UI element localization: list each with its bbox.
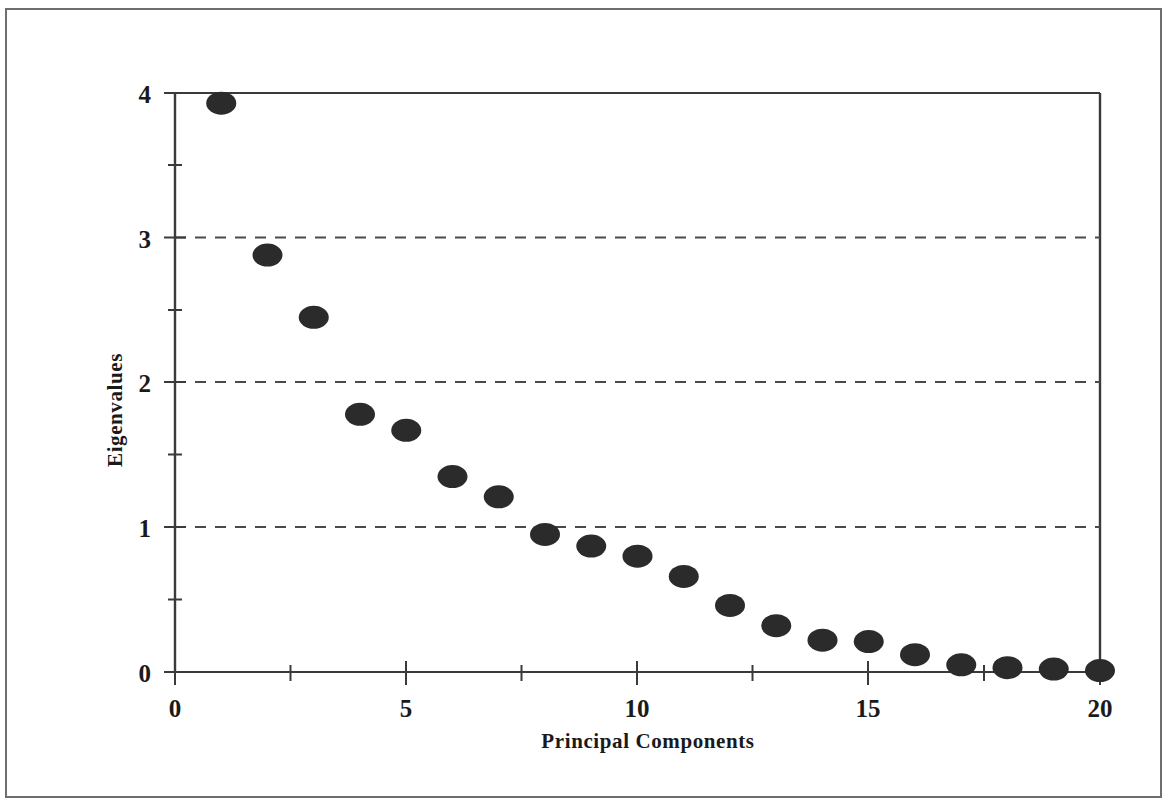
y-tick-label-4: 4 bbox=[139, 81, 152, 108]
data-point bbox=[808, 629, 838, 652]
y-tick-label-3: 3 bbox=[139, 226, 152, 253]
y-axis-title: Eigenvalues bbox=[103, 353, 127, 467]
data-point bbox=[900, 643, 930, 666]
y-axis-tick-labels: 4 3 2 1 0 bbox=[139, 81, 152, 687]
data-point bbox=[391, 419, 421, 442]
data-point bbox=[576, 535, 606, 558]
scree-plot-figure: 4 3 2 1 0 0 5 10 15 20 Principal Compone… bbox=[0, 0, 1172, 806]
data-point bbox=[623, 545, 653, 568]
figure-page: 4 3 2 1 0 0 5 10 15 20 Principal Compone… bbox=[0, 0, 1172, 806]
data-point bbox=[345, 403, 375, 426]
x-tick-label-20: 20 bbox=[1088, 695, 1113, 722]
data-point bbox=[761, 614, 791, 637]
data-point bbox=[530, 523, 560, 546]
grid-lines bbox=[175, 238, 1100, 528]
y-tick-label-0: 0 bbox=[139, 660, 152, 687]
data-point bbox=[1039, 658, 1069, 681]
chart-canvas: 4 3 2 1 0 0 5 10 15 20 Principal Compone… bbox=[0, 0, 1172, 806]
x-axis-tick-labels: 0 5 10 15 20 bbox=[169, 695, 1113, 722]
data-point bbox=[206, 92, 236, 115]
data-point bbox=[1085, 659, 1115, 682]
data-point-series bbox=[206, 92, 1115, 682]
x-tick-label-15: 15 bbox=[856, 695, 881, 722]
x-tick-label-0: 0 bbox=[169, 695, 182, 722]
data-point bbox=[484, 485, 514, 508]
data-point bbox=[715, 594, 745, 617]
data-point bbox=[669, 565, 699, 588]
y-tick-label-1: 1 bbox=[139, 515, 152, 542]
x-axis-title: Principal Components bbox=[541, 729, 754, 753]
data-point bbox=[993, 656, 1023, 679]
y-tick-label-2: 2 bbox=[139, 370, 152, 397]
data-point bbox=[854, 630, 884, 653]
x-tick-label-5: 5 bbox=[400, 695, 413, 722]
data-point bbox=[299, 306, 329, 329]
data-point bbox=[946, 653, 976, 676]
data-point bbox=[253, 244, 283, 267]
x-tick-label-10: 10 bbox=[625, 695, 650, 722]
data-point bbox=[438, 465, 468, 488]
